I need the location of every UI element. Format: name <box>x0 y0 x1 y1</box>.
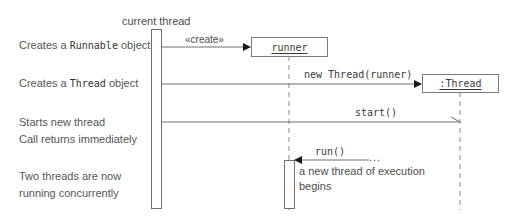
description-code: Runnable <box>70 40 118 51</box>
description-text: Creates a <box>19 77 70 89</box>
description-line: running concurrently <box>19 186 121 201</box>
description-text: Creates a <box>19 39 70 51</box>
description-create-runnable: Creates a Runnable object <box>19 38 150 53</box>
description-code: Thread <box>70 78 106 89</box>
new-thread-message-label: new Thread(runner) <box>304 68 412 82</box>
new-thread-note-line1: a new thread of execution <box>299 164 425 178</box>
description-line: Two threads are now <box>19 169 121 184</box>
description-line: Call returns immediately <box>19 132 137 147</box>
create-message-label: «create» <box>185 33 224 47</box>
description-create-thread: Creates a Thread object <box>19 76 138 91</box>
current-thread-label: current thread <box>122 14 190 28</box>
description-concurrent: Two threads are now running concurrently <box>19 169 121 201</box>
new-thread-note-line2: begins <box>299 179 331 193</box>
description-text: object <box>118 39 150 51</box>
run-origin-ellipsis: ... <box>369 150 381 164</box>
runner-object-label: runner <box>271 42 307 53</box>
run-message-label: run() <box>315 145 345 159</box>
description-text: object <box>106 77 138 89</box>
description-line: Starts new thread <box>19 115 137 130</box>
current-thread-activation <box>151 29 162 209</box>
start-message-label: start() <box>355 106 397 120</box>
runner-object: runner <box>251 37 328 57</box>
sequence-diagram: current thread runner :Thread «create» n… <box>0 0 510 222</box>
thread-object: :Thread <box>422 74 499 93</box>
description-start-thread: Starts new thread Call returns immediate… <box>19 115 137 147</box>
thread-object-label: :Thread <box>439 78 481 89</box>
start-arrowhead <box>451 117 460 122</box>
runner-activation <box>284 160 295 209</box>
